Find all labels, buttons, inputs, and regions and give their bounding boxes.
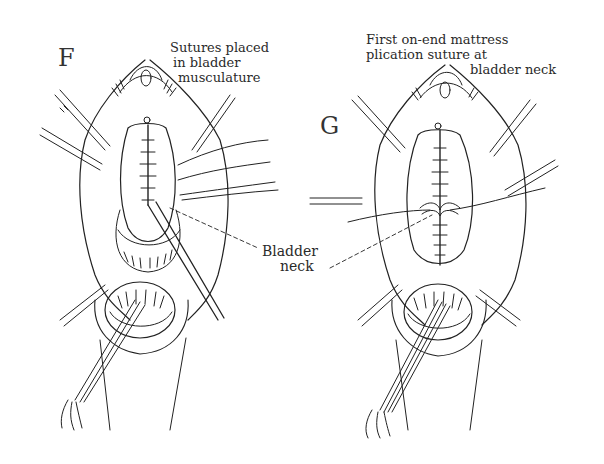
panel-f-caption-line: musculature xyxy=(170,70,269,85)
panel-g-drawing xyxy=(310,65,558,438)
panel-f-caption: Sutures placed in bladder musculature xyxy=(170,40,269,85)
panel-f-caption-line: in bladder xyxy=(170,55,269,70)
panel-f-drawing xyxy=(40,60,278,430)
bladder-neck-label-line: neck xyxy=(262,259,318,274)
panel-letter-g: G xyxy=(320,112,339,140)
panel-f-caption-line: Sutures placed xyxy=(170,40,269,55)
panel-g-caption-line: First on-end mattress xyxy=(366,32,556,47)
panel-g-caption-line: plication suture at xyxy=(366,47,556,62)
bladder-neck-label-line: Bladder xyxy=(262,244,318,259)
panel-letter-f: F xyxy=(58,44,75,72)
bladder-neck-label: Bladder neck xyxy=(262,244,318,274)
panel-g-caption: First on-end mattress plication suture a… xyxy=(366,32,556,77)
panel-g-caption-line: bladder neck xyxy=(366,62,556,77)
